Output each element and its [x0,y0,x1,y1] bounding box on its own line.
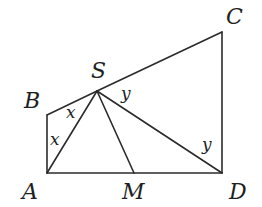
angle-label-x-a: x [50,129,60,149]
diagram-svg: S B C A M D x x y y [0,0,262,207]
vertex-label-c: C [226,4,243,29]
vertex-label-a: A [20,179,38,204]
angle-label-y-s: y [120,83,131,103]
vertex-label-m: M [121,179,145,204]
vertex-label-b: B [23,88,40,113]
vertex-label-s: S [91,58,106,83]
angle-label-x-s: x [66,102,76,122]
angle-label-y-d: y [201,134,212,154]
segment-sc [97,32,222,91]
geometry-diagram: S B C A M D x x y y [0,0,262,207]
vertex-label-d: D [228,179,247,204]
